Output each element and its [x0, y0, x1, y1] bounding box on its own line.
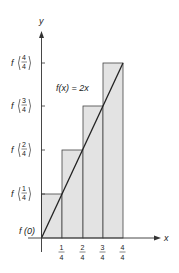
svg-text:4: 4: [121, 244, 125, 251]
svg-text:4: 4: [22, 63, 26, 70]
svg-text:2: 2: [22, 141, 26, 148]
svg-text:4: 4: [60, 254, 64, 261]
x-axis-label: x: [163, 233, 169, 243]
svg-text:4: 4: [22, 150, 26, 157]
svg-text:1: 1: [22, 185, 26, 192]
y-tick-label-4: f 4 4: [11, 54, 31, 70]
rectangle-3: [83, 106, 103, 238]
svg-text:f: f: [11, 58, 15, 68]
origin-label: f (0): [19, 226, 35, 236]
rectangle-2: [62, 150, 83, 238]
svg-text:f: f: [11, 101, 15, 111]
svg-text:3: 3: [101, 244, 105, 251]
riemann-sum-diagram: y x f(x) = 2x f (0) f 1 4 f 2 4 f 3 4 f …: [0, 0, 179, 273]
svg-text:f: f: [11, 189, 15, 199]
x-tick-label-3: 3 4: [100, 244, 106, 261]
y-tick-label-1: f 1 4: [11, 185, 31, 201]
svg-text:1: 1: [60, 244, 64, 251]
svg-text:f: f: [11, 145, 15, 155]
y-axis-label: y: [38, 16, 44, 26]
svg-text:4: 4: [22, 54, 26, 61]
rectangle-4: [103, 63, 123, 238]
svg-text:4: 4: [22, 194, 26, 201]
x-axis-arrow-icon: [154, 236, 161, 241]
y-tick-label-2: f 2 4: [11, 141, 31, 157]
x-tick-label-1: 1 4: [59, 244, 65, 261]
svg-text:4: 4: [101, 254, 105, 261]
x-tick-label-4: 4 4: [120, 244, 126, 261]
svg-text:4: 4: [22, 106, 26, 113]
svg-text:4: 4: [81, 254, 85, 261]
y-tick-label-3: f 3 4: [11, 97, 31, 113]
x-tick-label-2: 2 4: [80, 244, 86, 261]
svg-text:3: 3: [22, 97, 26, 104]
function-label: f(x) = 2x: [56, 83, 89, 93]
svg-text:2: 2: [81, 244, 85, 251]
y-axis-arrow-icon: [39, 31, 44, 38]
svg-text:4: 4: [121, 254, 125, 261]
